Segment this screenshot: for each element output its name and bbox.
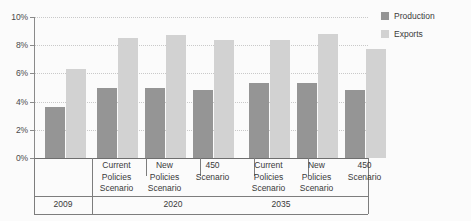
scenario-label-line: Policies bbox=[242, 172, 296, 184]
bar-production bbox=[193, 90, 213, 158]
scenario-label-line: Scenario bbox=[138, 183, 192, 195]
bars-layer bbox=[35, 17, 368, 158]
scenario-label-line: 450 bbox=[338, 160, 392, 172]
x-axis-line bbox=[34, 158, 368, 159]
y-axis-tick-mark bbox=[30, 73, 34, 74]
bar-exports bbox=[270, 40, 290, 158]
scenario-label: CurrentPoliciesScenario bbox=[90, 160, 144, 195]
bar-chart: 10%8%6%4%2%0% CurrentPoliciesScenarioNew… bbox=[0, 0, 471, 221]
scenario-label-line: Policies bbox=[90, 172, 144, 184]
scenario-label: 450Scenario bbox=[186, 160, 240, 183]
scenario-label-line: 450 bbox=[186, 160, 240, 172]
y-axis-tick-mark bbox=[30, 102, 34, 103]
y-axis-tick-label: 8% bbox=[16, 40, 28, 50]
y-axis-tick-mark bbox=[30, 130, 34, 131]
legend-swatch-icon bbox=[381, 12, 389, 20]
chart-bottom-frame bbox=[34, 214, 368, 215]
bar-exports bbox=[214, 40, 234, 158]
scenario-label-line: New bbox=[290, 160, 344, 172]
group-year-label: 2035 bbox=[251, 199, 311, 209]
y-axis-tick-label: 6% bbox=[16, 68, 28, 78]
bar-production bbox=[249, 83, 269, 158]
bar-production bbox=[97, 88, 117, 159]
scenario-label-line: Policies bbox=[290, 172, 344, 184]
scenario-label-line: Current bbox=[242, 160, 296, 172]
legend-item-exports[interactable]: Exports bbox=[381, 29, 435, 39]
bar-exports bbox=[118, 38, 138, 158]
scenario-label-line: Current bbox=[90, 160, 144, 172]
bar-production bbox=[45, 107, 65, 158]
legend-item-production[interactable]: Production bbox=[381, 11, 435, 21]
scenario-label-line: Scenario bbox=[242, 183, 296, 195]
y-axis-tick-label: 4% bbox=[16, 97, 28, 107]
group-year-label: 2020 bbox=[143, 199, 203, 209]
bar-exports bbox=[166, 35, 186, 158]
scenario-label: NewPoliciesScenario bbox=[138, 160, 192, 195]
scenario-label-line: New bbox=[138, 160, 192, 172]
legend: Production Exports bbox=[381, 11, 435, 47]
legend-label: Production bbox=[394, 11, 435, 21]
y-axis-tick-label: 0% bbox=[16, 153, 28, 163]
y-axis-tick-label: 10% bbox=[11, 12, 28, 22]
scenario-label-line: Scenario bbox=[186, 172, 240, 184]
scenario-label-line: Scenario bbox=[290, 183, 344, 195]
group-year-label: 2009 bbox=[33, 199, 93, 209]
scenario-label-line: Policies bbox=[138, 172, 192, 184]
scenario-label: NewPoliciesScenario bbox=[290, 160, 344, 195]
scenario-label: 450Scenario bbox=[338, 160, 392, 183]
legend-swatch-icon bbox=[381, 30, 389, 38]
bar-exports bbox=[318, 34, 338, 158]
y-axis-tick-label: 2% bbox=[16, 125, 28, 135]
legend-label: Exports bbox=[394, 29, 423, 39]
bar-exports bbox=[366, 49, 386, 158]
scenario-label: CurrentPoliciesScenario bbox=[242, 160, 296, 195]
bar-exports bbox=[66, 69, 86, 158]
scenario-label-line: Scenario bbox=[338, 172, 392, 184]
bar-production bbox=[345, 90, 365, 158]
bar-production bbox=[145, 88, 165, 159]
plot-area: 10%8%6%4%2%0% bbox=[34, 17, 368, 159]
label-band-divider bbox=[34, 196, 368, 197]
bar-production bbox=[297, 83, 317, 158]
y-axis-tick-mark bbox=[30, 45, 34, 46]
scenario-label-line: Scenario bbox=[90, 183, 144, 195]
y-axis-tick-mark bbox=[30, 17, 34, 18]
